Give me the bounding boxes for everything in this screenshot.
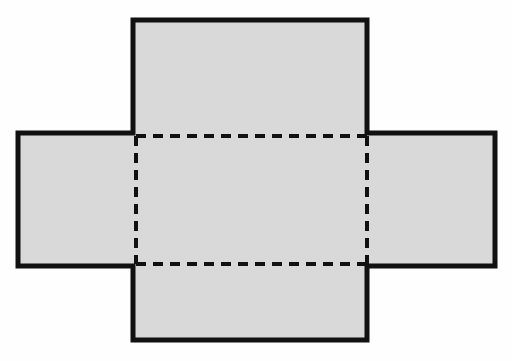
box-net-diagram: Net of a rectangular box (cross-shaped u… xyxy=(0,0,512,361)
figure-container: Net of a rectangular box (cross-shaped u… xyxy=(0,0,512,361)
